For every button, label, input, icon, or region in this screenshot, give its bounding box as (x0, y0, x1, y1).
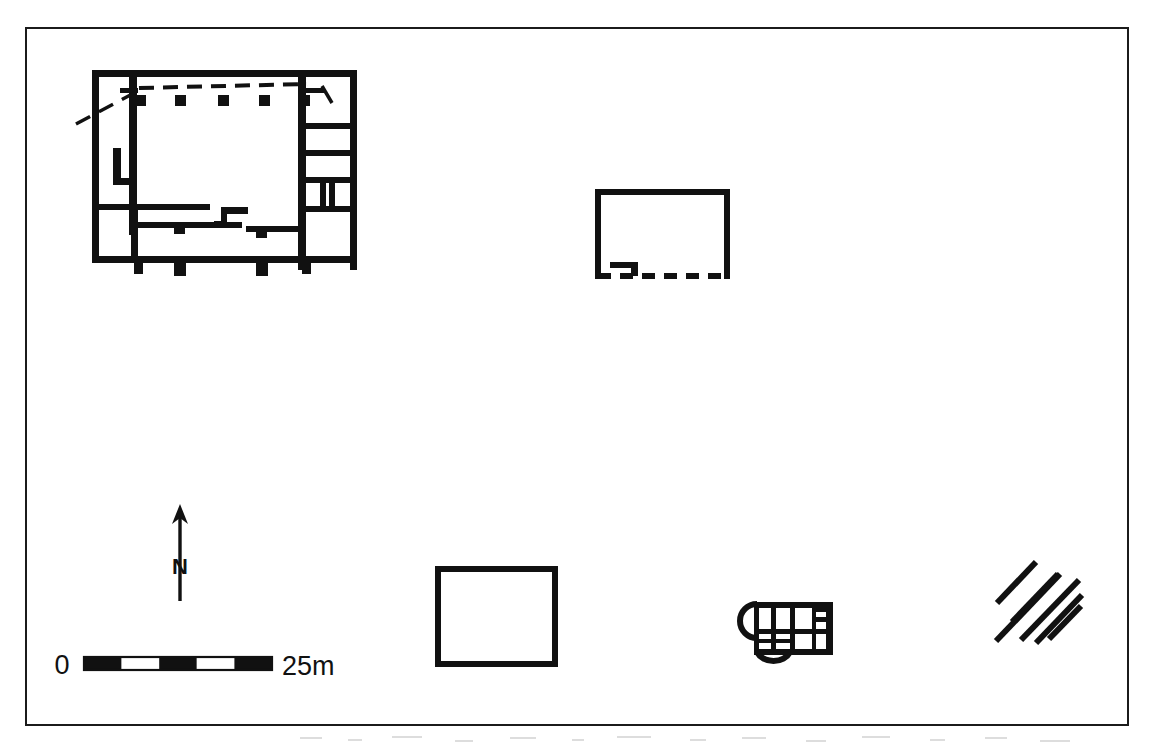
column-base-1 (136, 95, 146, 106)
sw-annexe-west-wall (92, 204, 99, 263)
corridor-buttress-1 (174, 222, 185, 234)
corridor-buttress-2 (256, 226, 267, 238)
apsidal-cross-wall-2 (756, 639, 794, 643)
scale-bar-segment-5 (234, 657, 272, 670)
east-wall-stub (306, 88, 324, 93)
enclosure-north-wall (595, 189, 730, 195)
apsidal-partition-3 (812, 604, 816, 649)
scale-bar-segment-4 (197, 657, 235, 670)
scale-bar-segments (84, 657, 272, 670)
north-arrow-label: N (172, 554, 188, 579)
column-base-4 (259, 95, 270, 106)
apsidal-annexe-cell-a (816, 607, 826, 612)
south-buttress-2 (174, 263, 186, 276)
west-outer-wall (92, 70, 99, 210)
scale-bar-segment-1 (84, 657, 122, 670)
scale-bar-start-label: 0 (54, 650, 69, 680)
scale-bar-segment-3 (159, 657, 197, 670)
corridor-north-stub (137, 204, 210, 210)
site-plan-plate: N 0 25m (0, 0, 1155, 750)
column-base-3 (218, 95, 229, 106)
column-base-5 (299, 95, 310, 106)
east-wing-wall-2 (302, 150, 357, 156)
east-wing-pier-b (329, 179, 335, 207)
column-base-2 (175, 95, 186, 106)
east-wing-wall-1 (302, 123, 357, 129)
scale-bar-end-label: 25m (282, 651, 335, 681)
east-wing-pier-a (320, 179, 326, 207)
enclosure-west-wall (595, 189, 601, 279)
enclosure-east-wall (724, 189, 730, 279)
square-west-wall (435, 566, 441, 667)
apsidal-east-wall (826, 602, 833, 655)
east-outer-wall (350, 70, 357, 270)
apsidal-annexe-cell-b (816, 617, 826, 622)
south-buttress-1 (134, 263, 143, 274)
south-buttress-3 (256, 263, 268, 276)
square-east-wall (552, 566, 558, 667)
sw-annexe-east-wall (131, 204, 138, 263)
south-buttress-4 (302, 263, 311, 274)
drawing-background (0, 0, 1155, 750)
scale-bar-segment-2 (122, 657, 160, 670)
square-north-wall (435, 566, 558, 572)
apsidal-cross-wall-1 (756, 629, 826, 634)
site-plan-drawing: N 0 25m (0, 0, 1155, 750)
sw-annexe-north-wall (92, 204, 137, 210)
apsidal-south-wall (754, 649, 826, 655)
apsidal-west-wall (754, 604, 759, 650)
corridor-inner-wall-right (246, 226, 301, 232)
square-south-wall (435, 661, 558, 667)
